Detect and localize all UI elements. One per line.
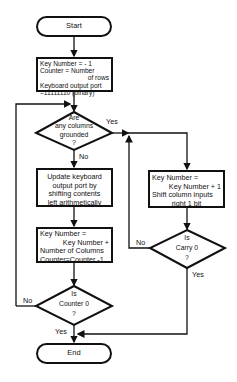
init-line: Keyboard output port [40, 82, 109, 89]
init-line: Key Number = - 1 [40, 60, 109, 67]
decision-line: Is [157, 233, 217, 243]
shift-line: right 1 bit [152, 200, 221, 209]
decision-grounded-text: Are any columns grounded ? [44, 114, 104, 148]
init-line: =11111110 (binary) [40, 89, 109, 96]
keynum-line: Counter=Counter -1 [40, 256, 109, 265]
decision-counter-text: Is Counter 0 ? [44, 289, 104, 319]
grounded-no-label: No [79, 152, 88, 161]
carry-yes-label: Yes [192, 270, 204, 279]
carry-no-label: No [136, 238, 145, 247]
decision-line: ? [157, 253, 217, 263]
init-line: Counter = Number [40, 67, 109, 74]
init-line: of rows [40, 74, 109, 81]
decision-carry-text: Is Carry 0 ? [157, 233, 217, 263]
grounded-yes-label: Yes [106, 117, 118, 126]
end-terminator: End [36, 343, 112, 364]
start-terminator: Start [36, 16, 112, 37]
keynumber-process-box: Key Number = Key Number + Number of Colu… [36, 227, 113, 263]
counter-no-label: No [23, 296, 32, 305]
update-process-box: Update keyboard output port by shifting … [36, 168, 113, 207]
decision-line: Are [44, 114, 104, 122]
init-process-box: Key Number = - 1 Counter = Number of row… [36, 57, 113, 92]
counter-yes-label: Yes [55, 327, 67, 336]
update-line: left arithmetically [40, 199, 109, 208]
decision-line: ? [44, 139, 104, 147]
decision-line: grounded [44, 131, 104, 139]
decision-line: Is [44, 289, 104, 299]
end-label: End [67, 349, 80, 358]
decision-line: ? [44, 309, 104, 319]
decision-line: Carry 0 [157, 243, 217, 253]
shift-process-box: Key Number = Key Number + 1 Shift column… [148, 170, 225, 208]
decision-line: any columns [44, 122, 104, 130]
start-label: Start [66, 22, 82, 31]
decision-line: Counter 0 [44, 299, 104, 309]
